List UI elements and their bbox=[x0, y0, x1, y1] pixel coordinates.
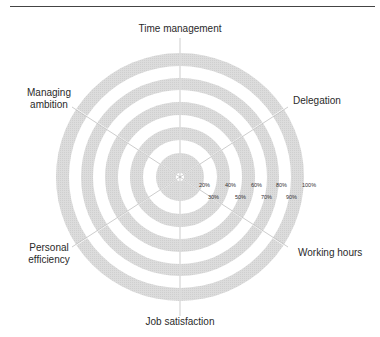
scale-70: 70% bbox=[261, 194, 272, 200]
scale-50: 50% bbox=[235, 194, 246, 200]
scale-90: 90% bbox=[286, 194, 297, 200]
label-managing-ambition-line2: ambition bbox=[18, 99, 80, 111]
scale-40: 40% bbox=[225, 182, 236, 188]
label-delegation: Delegation bbox=[293, 95, 341, 107]
scale-30: 30% bbox=[208, 194, 219, 200]
label-managing-ambition-line1: Managing bbox=[18, 87, 80, 99]
scale-100: 100% bbox=[302, 182, 316, 188]
label-personal-efficiency: Personal efficiency bbox=[18, 242, 80, 266]
wheel-diagram: 20% 30% 40% 50% 60% 70% 80% 90% 100% bbox=[0, 0, 380, 337]
label-job-satisfaction: Job satisfaction bbox=[130, 316, 230, 328]
scale-80: 80% bbox=[276, 182, 287, 188]
label-personal-efficiency-line2: efficiency bbox=[18, 254, 80, 266]
scale-60: 60% bbox=[251, 182, 262, 188]
label-working-hours: Working hours bbox=[298, 247, 362, 259]
label-personal-efficiency-line1: Personal bbox=[18, 242, 80, 254]
label-managing-ambition: Managing ambition bbox=[18, 87, 80, 111]
scale-20: 20% bbox=[199, 182, 210, 188]
label-time-management: Time management bbox=[130, 23, 230, 35]
